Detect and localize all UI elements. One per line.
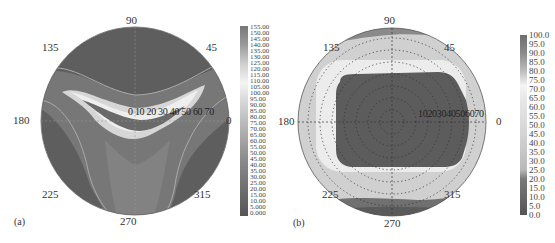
colorbar-b	[520, 35, 527, 215]
angle-label-270: 270	[120, 215, 137, 227]
angle-label-315: 315	[444, 188, 461, 200]
colorbar-a	[240, 26, 248, 216]
panel-b: 90 135 45 180 0 225 270 315 102030405060…	[278, 0, 555, 243]
colorbar-tick: 0.0	[529, 211, 540, 220]
angle-label-45: 45	[444, 41, 455, 53]
panel-label-b: (b)	[293, 217, 305, 228]
angle-label-180: 180	[278, 115, 295, 127]
angle-label-135: 135	[323, 41, 340, 53]
polar-plot-b	[278, 0, 555, 243]
angle-label-225: 225	[42, 188, 59, 200]
colorbar-tick: 0.000	[250, 210, 266, 217]
angle-label-180: 180	[13, 114, 30, 126]
angle-label-45: 45	[206, 41, 217, 53]
angle-label-90: 90	[126, 14, 137, 26]
angle-label-315: 315	[194, 188, 211, 200]
angle-label-0: 0	[226, 114, 232, 126]
radial-ticks-b: 10203040506070	[418, 108, 484, 119]
polar-plot-a	[0, 0, 278, 243]
panel-a: 90 135 45 180 0 225 270 315 0 10 20 30 4…	[0, 0, 278, 243]
angle-label-225: 225	[322, 188, 339, 200]
radial-ticks-a: 0 10 20 30 40 50 60 70	[128, 106, 214, 117]
angle-label-0: 0	[496, 115, 502, 127]
angle-label-270: 270	[384, 217, 401, 229]
panel-label-a: (a)	[14, 216, 25, 227]
angle-label-90: 90	[384, 14, 395, 26]
angle-label-135: 135	[42, 41, 59, 53]
